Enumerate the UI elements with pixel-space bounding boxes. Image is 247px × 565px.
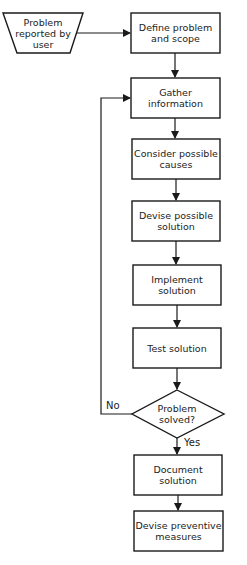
node-reported-label: Problem reported by user xyxy=(10,13,76,53)
node-consider-label: Consider possible causes xyxy=(132,139,220,179)
edge-label-no: No xyxy=(106,400,120,411)
node-devise-label: Devise possible solution xyxy=(132,201,220,241)
node-gather-label: Gather information xyxy=(131,78,220,118)
node-prevent-label: Devise preventive measures xyxy=(134,511,223,551)
flowchart: Problem reported by user Define problem … xyxy=(0,0,247,565)
node-solved-label: Problem solved? xyxy=(147,394,207,434)
edge-label-yes: Yes xyxy=(184,437,200,448)
node-implement-label: Implement solution xyxy=(133,265,221,305)
edge-solved-gather-no xyxy=(101,98,132,414)
node-define-label: Define problem and scope xyxy=(131,13,220,53)
node-test-label: Test solution xyxy=(133,328,221,368)
node-document-label: Document solution xyxy=(134,455,222,495)
